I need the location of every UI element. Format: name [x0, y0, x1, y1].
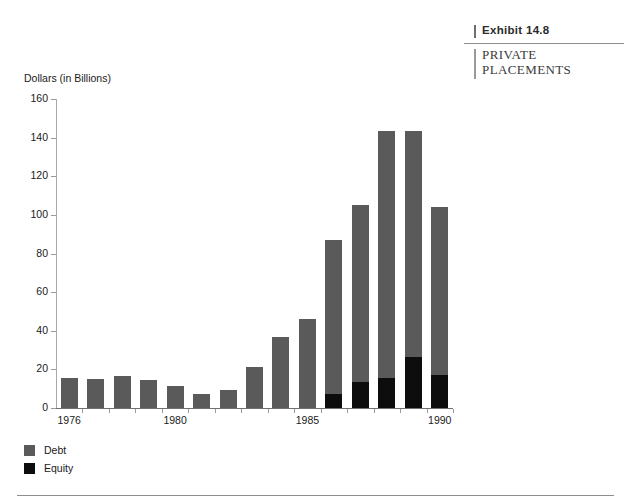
y-axis-title: Dollars (in Billions): [24, 72, 111, 84]
x-axis-tick-label: 1985: [287, 414, 327, 426]
bar-segment-debt: [378, 131, 395, 378]
x-axis-tick-mark: [321, 409, 322, 413]
bar-segment-debt: [299, 319, 316, 408]
plot-area: [56, 99, 453, 408]
bar-1976: [61, 378, 78, 408]
x-axis-tick-mark: [268, 409, 269, 413]
bar-1983: [246, 367, 263, 408]
legend-item-debt: Debt: [24, 441, 73, 459]
bar-segment-debt: [220, 390, 237, 408]
bar-1981: [193, 394, 210, 408]
x-axis-tick-label: 1976: [49, 414, 89, 426]
bar-segment-debt: [114, 376, 131, 408]
x-axis-tick-mark: [453, 409, 454, 413]
bar-segment-debt: [352, 205, 369, 382]
x-axis-tick-mark: [347, 409, 348, 413]
chart-legend: DebtEquity: [24, 441, 73, 477]
x-axis-line: [56, 408, 453, 409]
bar-1980: [167, 386, 184, 408]
x-axis-tick-label: 1980: [155, 414, 195, 426]
bar-1985: [299, 319, 316, 408]
y-axis-tick-label: 40: [18, 324, 48, 336]
bar-1982: [220, 390, 237, 408]
page-bottom-rule: [17, 495, 614, 496]
bar-1989: [405, 131, 422, 408]
y-axis-tick-label: 120: [18, 169, 48, 181]
x-axis-tick-mark: [188, 409, 189, 413]
y-axis-tick-mark: [51, 408, 56, 409]
legend-swatch-debt: [24, 445, 35, 456]
bar-segment-equity: [378, 378, 395, 408]
x-axis-tick-mark: [400, 409, 401, 413]
x-axis-tick-mark: [374, 409, 375, 413]
bar-1977: [87, 379, 104, 408]
bar-segment-equity: [431, 375, 448, 408]
bar-segment-debt: [140, 380, 157, 408]
bar-segment-debt: [193, 394, 210, 408]
chart: Dollars (in Billions) 160140120100806040…: [0, 0, 628, 503]
y-axis-tick-label: 0: [18, 401, 48, 413]
x-axis-tick-mark: [162, 409, 163, 413]
x-axis-tick-mark: [215, 409, 216, 413]
legend-item-equity: Equity: [24, 459, 73, 477]
x-axis-tick-mark: [82, 409, 83, 413]
bar-1987: [352, 205, 369, 408]
x-axis-tick-mark: [135, 409, 136, 413]
legend-label-debt: Debt: [44, 444, 66, 456]
x-axis-tick-mark: [241, 409, 242, 413]
y-axis-tick-label: 20: [18, 362, 48, 374]
bar-segment-debt: [61, 378, 78, 408]
x-axis-tick-mark: [427, 409, 428, 413]
bar-segment-debt: [405, 131, 422, 357]
bar-segment-debt: [167, 386, 184, 408]
bar-segment-debt: [272, 337, 289, 408]
bar-1990: [431, 207, 448, 408]
bar-1984: [272, 337, 289, 408]
y-axis-tick-label: 80: [18, 247, 48, 259]
bar-segment-debt: [431, 207, 448, 375]
y-axis-tick-label: 100: [18, 208, 48, 220]
legend-label-equity: Equity: [44, 462, 73, 474]
bar-1986: [325, 240, 342, 408]
bar-1979: [140, 380, 157, 408]
y-axis-tick-label: 160: [18, 92, 48, 104]
bar-segment-equity: [352, 382, 369, 408]
x-axis-tick-mark: [109, 409, 110, 413]
bar-segment-equity: [325, 394, 342, 408]
bar-1978: [114, 376, 131, 408]
x-axis-tick-mark: [294, 409, 295, 413]
x-axis-tick-label: 1990: [420, 414, 460, 426]
y-axis-tick-label: 60: [18, 285, 48, 297]
bar-segment-debt: [325, 240, 342, 395]
bar-segment-debt: [87, 379, 104, 408]
bar-segment-debt: [246, 367, 263, 408]
bar-segment-equity: [405, 357, 422, 408]
y-axis-tick-label: 140: [18, 131, 48, 143]
bar-1988: [378, 131, 395, 408]
legend-swatch-equity: [24, 463, 35, 474]
